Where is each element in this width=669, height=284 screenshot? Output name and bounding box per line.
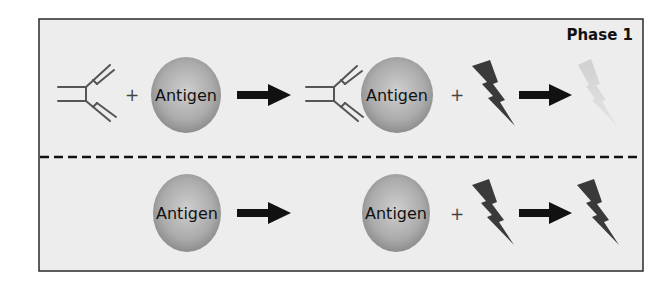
plus-sign: + <box>125 85 139 105</box>
plus-sign: + <box>450 85 464 105</box>
diagram-panel <box>39 19 643 271</box>
antigen-label: Antigen <box>366 86 428 105</box>
antigen-sphere: Antigen <box>153 174 221 252</box>
antigen-sphere: Antigen <box>151 57 221 133</box>
plus-sign: + <box>450 204 464 224</box>
antigen-label: Antigen <box>155 86 217 105</box>
immunoassay-diagram: Phase 1 + Antigen Antigen + <box>0 0 669 284</box>
antigen-sphere: Antigen <box>361 57 433 133</box>
phase-label: Phase 1 <box>566 26 633 44</box>
antigen-sphere: Antigen <box>362 174 430 252</box>
antigen-label: Antigen <box>156 204 218 223</box>
antigen-label: Antigen <box>365 204 427 223</box>
